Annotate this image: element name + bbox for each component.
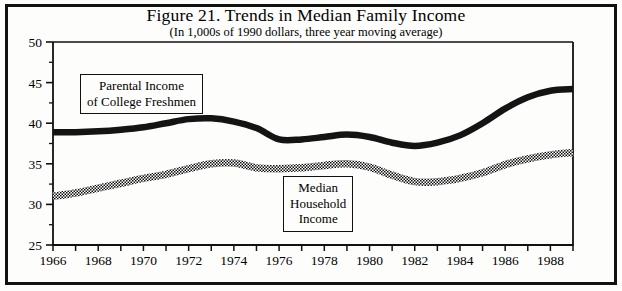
annotation-median-line3: Income [290,211,346,227]
svg-text:50: 50 [29,35,43,50]
svg-text:1984: 1984 [446,253,473,268]
svg-text:30: 30 [29,197,43,212]
y-axis-tick-labels: 253035404550 [29,35,43,253]
svg-text:1968: 1968 [85,253,112,268]
svg-text:1976: 1976 [266,253,293,268]
annotation-median-household-income: Median Household Income [283,176,353,232]
annotation-median-line2: Household [290,196,346,212]
svg-text:1974: 1974 [220,253,247,268]
annotation-parental-line2: of College Freshmen [87,94,196,110]
svg-text:1966: 1966 [40,253,67,268]
svg-text:1970: 1970 [130,253,157,268]
svg-text:45: 45 [29,76,43,91]
annotation-parental-income: Parental Income of College Freshmen [80,74,203,114]
svg-text:1988: 1988 [537,253,564,268]
svg-text:1980: 1980 [356,253,383,268]
annotation-parental-line1: Parental Income [87,78,196,94]
svg-text:1978: 1978 [311,253,338,268]
svg-text:1972: 1972 [175,253,202,268]
svg-text:1986: 1986 [492,253,519,268]
svg-text:40: 40 [29,116,43,131]
svg-text:35: 35 [29,157,43,172]
annotation-median-line1: Median [290,180,346,196]
chart-canvas: 253035404550 196619681970197219741976197… [0,0,612,281]
x-axis-tick-labels: 1966196819701972197419761978198019821984… [40,253,565,268]
svg-text:25: 25 [29,238,43,253]
plot-area: 253035404550 196619681970197219741976197… [0,0,612,281]
figure-21-median-family-income: Figure 21. Trends in Median Family Incom… [0,0,622,291]
svg-text:1982: 1982 [401,253,428,268]
